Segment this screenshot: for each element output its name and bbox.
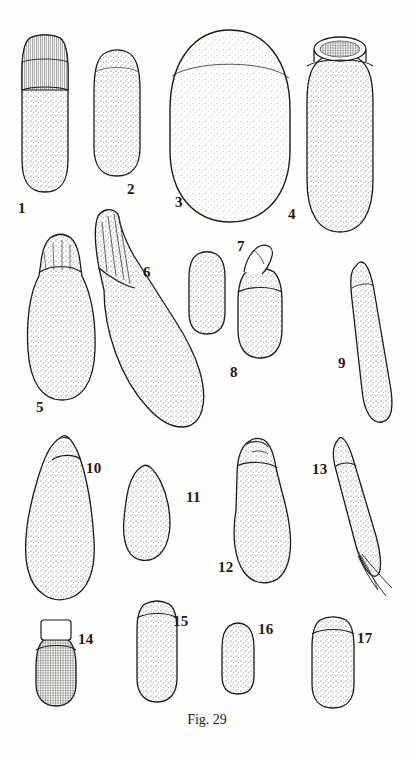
figure-number-12: 12 (218, 559, 234, 576)
figure-number-2: 2 (127, 181, 135, 198)
specimen-2 (94, 50, 140, 176)
figure-number-6: 6 (143, 264, 151, 281)
figure-number-9: 9 (338, 355, 346, 372)
figure-number-3: 3 (175, 194, 183, 211)
specimen-17 (312, 617, 354, 708)
specimen-16 (222, 623, 254, 694)
figure-number-10: 10 (86, 460, 102, 477)
figure-number-17: 17 (357, 630, 373, 647)
specimen-1 (22, 35, 68, 192)
figure-number-5: 5 (36, 399, 44, 416)
figure-number-13: 13 (312, 461, 328, 478)
figure-number-14: 14 (78, 631, 94, 648)
figure-number-1: 1 (18, 200, 26, 217)
specimen-3 (170, 30, 290, 222)
figure-number-4: 4 (288, 206, 296, 223)
figure-number-15: 15 (173, 613, 189, 630)
figure-number-16: 16 (258, 621, 274, 638)
specimen-14 (36, 620, 76, 706)
figure-number-7: 7 (237, 238, 245, 255)
specimen-plate-illustration (0, 0, 414, 761)
specimen-4 (307, 37, 373, 232)
figure-number-8: 8 (230, 364, 238, 381)
specimen-15 (137, 601, 177, 702)
figure-caption: Fig. 29 (0, 712, 414, 728)
specimen-7 (189, 252, 225, 334)
figure-number-11: 11 (186, 489, 201, 506)
